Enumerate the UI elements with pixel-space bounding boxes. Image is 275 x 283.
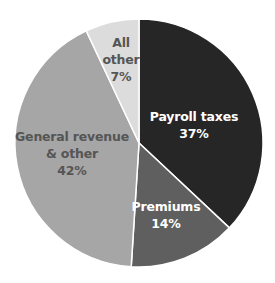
slice-label-line: Premiums bbox=[132, 198, 201, 215]
slice-label-premiums: Premiums 14% bbox=[132, 198, 201, 232]
slice-label-line: other bbox=[102, 51, 139, 68]
slice-label-line: Payroll taxes bbox=[150, 108, 239, 125]
slice-label-value: 37% bbox=[150, 125, 239, 142]
slice-label-line: All bbox=[102, 34, 139, 51]
slice-label-general-revenue: General revenue & other 42% bbox=[15, 128, 129, 179]
slice-label-line: & other bbox=[15, 145, 129, 162]
slice-label-value: 42% bbox=[15, 162, 129, 179]
slice-label-line: General revenue bbox=[15, 128, 129, 145]
slice-label-value: 14% bbox=[132, 215, 201, 232]
slice-label-value: 7% bbox=[102, 68, 139, 85]
slice-label-payroll-taxes: Payroll taxes 37% bbox=[150, 108, 239, 142]
slice-label-all-other: All other 7% bbox=[102, 34, 139, 85]
